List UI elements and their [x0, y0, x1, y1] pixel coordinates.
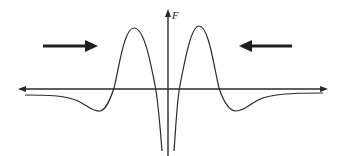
approach-arrow-right-icon — [43, 40, 98, 52]
force-diagram: F — [0, 0, 343, 156]
axis-arrowhead-left-icon — [18, 86, 26, 92]
axis-arrowhead-right-icon — [320, 86, 328, 92]
vertical-axis — [165, 9, 171, 156]
approach-arrow-left-icon — [239, 40, 292, 52]
axis-arrowhead-up-icon — [165, 9, 171, 17]
horizontal-axis — [18, 86, 328, 92]
force-axis-label: F — [171, 9, 179, 21]
